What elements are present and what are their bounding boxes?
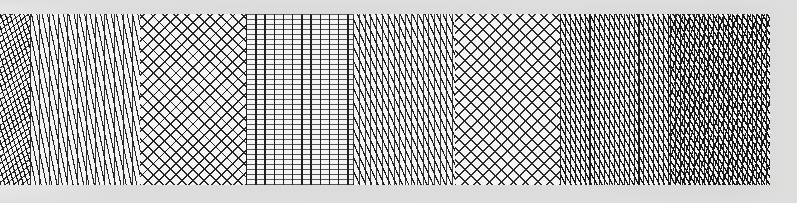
swatch-diamond-lattice[interactable]: [140, 14, 246, 185]
swatch-dense-crosshatch[interactable]: [0, 14, 30, 185]
swatch-dense-steep-grid[interactable]: [560, 14, 670, 185]
pattern-swatch-canvas: [0, 0, 797, 203]
swatch-band: [0, 14, 770, 185]
swatch-dark-mesh[interactable]: [670, 14, 770, 185]
swatch-orthogonal-grid[interactable]: [246, 14, 353, 185]
swatch-fine-steep-hatch[interactable]: [353, 14, 455, 185]
swatch-steep-diagonal-rules[interactable]: [30, 14, 140, 185]
swatch-open-crosshatch[interactable]: [455, 14, 560, 185]
